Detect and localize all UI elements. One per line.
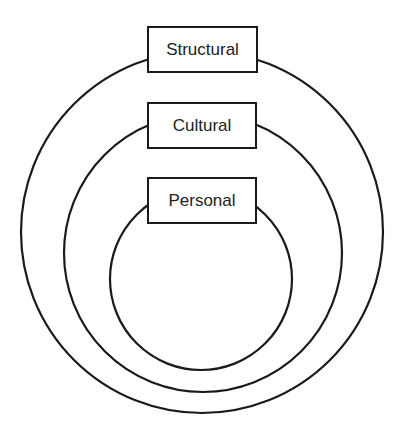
cultural-label: Cultural: [173, 116, 232, 136]
personal-label-box: Personal: [147, 177, 257, 224]
structural-label-box: Structural: [147, 26, 258, 73]
cultural-label-box: Cultural: [147, 102, 257, 149]
cultural-ring: [64, 114, 342, 392]
structural-label: Structural: [166, 40, 239, 60]
pcs-model-diagram: Structural Cultural Personal: [0, 0, 404, 433]
personal-label: Personal: [168, 191, 235, 211]
